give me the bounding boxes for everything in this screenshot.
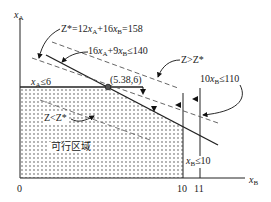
x-tick-10: 10 (177, 184, 187, 194)
z-less-label: Z<Z* (44, 113, 67, 123)
objective-label: Z*=12xA+16xB=158 (61, 24, 143, 36)
feasible-region-label: 可行区域 (49, 142, 93, 152)
optimal-point-label: (5.38,6) (110, 75, 142, 85)
constraint-16xa-9xb-label: 16xA+9xB≤140 (88, 46, 148, 58)
lp-diagram: xA xB 0 10 11 Z*=12xA+16xB=158 16xA+9xB≤… (0, 0, 271, 202)
y-axis-label: xA (14, 10, 24, 22)
constraint-10xb-label: 10xB≤110 (200, 74, 239, 86)
x-axis-label: xB (249, 175, 258, 187)
constraint-xb-label: xB≤10 (186, 156, 211, 168)
optimal-point-marker (105, 84, 111, 90)
constraint-xa-label: xA≤6 (31, 77, 51, 89)
z-greater-label: Z>Z* (181, 55, 204, 65)
origin-label: 0 (17, 184, 22, 194)
feasible-region (20, 87, 183, 178)
x-tick-11: 11 (194, 184, 204, 194)
